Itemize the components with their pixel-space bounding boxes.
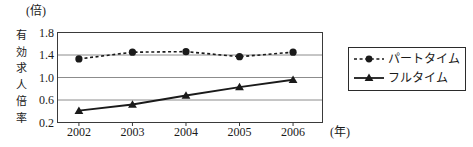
data-point-marker <box>289 49 296 56</box>
chart-figure: (倍) 有効求人倍率 1.8 1.4 1.0 0.6 0.2 2002 2003… <box>0 0 473 147</box>
data-point-marker <box>75 55 82 62</box>
legend-item-full-time: フルタイム <box>354 69 448 87</box>
gridlines <box>58 55 323 100</box>
dashed-circle-line-icon <box>354 52 384 66</box>
legend: パートタイム フルタイム <box>348 47 466 91</box>
data-point-marker <box>182 48 189 55</box>
data-point-marker <box>129 49 136 56</box>
solid-triangle-line-icon <box>354 71 384 85</box>
series-layer <box>75 48 298 114</box>
legend-label: フルタイム <box>388 71 448 85</box>
data-point-marker <box>236 53 243 60</box>
x-tick-marks <box>79 123 293 127</box>
legend-item-part-time: パートタイム <box>354 50 460 68</box>
legend-label: パートタイム <box>388 52 460 66</box>
